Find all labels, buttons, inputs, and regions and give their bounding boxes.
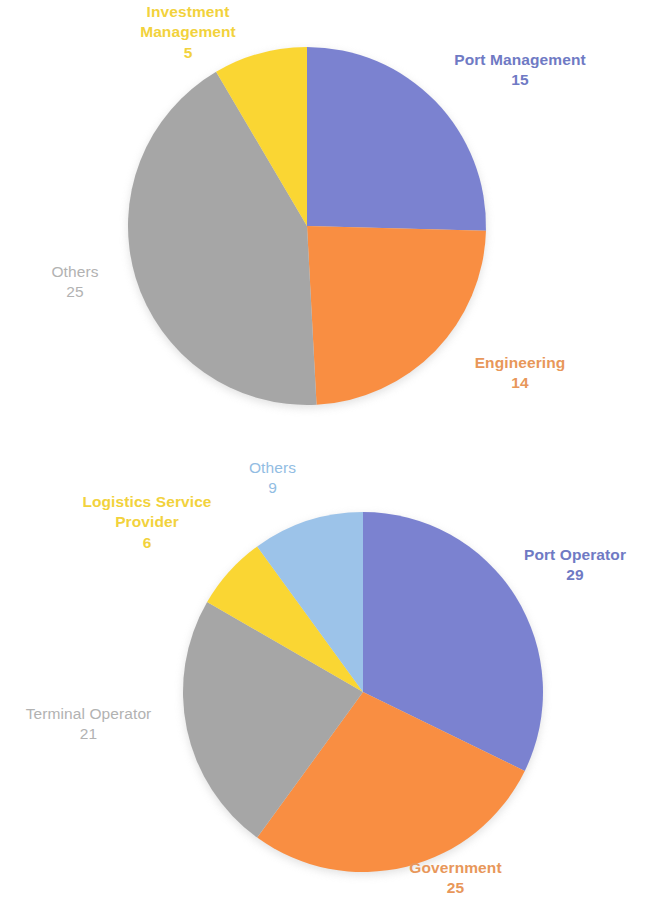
slice-label-investment-management-line1: Investment — [147, 3, 230, 20]
slice-label-government: Government 25 — [368, 858, 543, 899]
slice-value-terminal-operator: 21 — [0, 724, 181, 744]
slice-label-government-text: Government — [409, 859, 501, 876]
slice-value-government: 25 — [368, 878, 543, 898]
slice-label-others-top: Others 25 — [10, 262, 140, 303]
slice-label-investment-management-line2: Management — [140, 23, 236, 40]
slice-label-port-management: Port Management 15 — [420, 50, 620, 91]
slice-label-engineering: Engineering 14 — [425, 353, 615, 394]
slice-label-terminal-operator-text: Terminal Operator — [26, 705, 152, 722]
slice-value-others-top: 25 — [10, 282, 140, 302]
slice-value-engineering: 14 — [425, 373, 615, 393]
pie-chart-top: Investment Management 5 Port Management … — [0, 0, 653, 440]
slice-label-port-operator-text: Port Operator — [524, 546, 626, 563]
slice-value-logistics-service-provider: 6 — [42, 533, 252, 553]
slice-label-investment-management: Investment Management 5 — [88, 2, 288, 63]
slice-label-port-management-text: Port Management — [454, 51, 586, 68]
slice-label-logistics-service-provider-line1: Logistics Service — [82, 493, 211, 510]
pie-chart-stack: Investment Management 5 Port Management … — [0, 0, 653, 911]
slice-label-others-top-text: Others — [51, 263, 98, 280]
pie-chart-bottom: Others 9 Logistics Service Provider 6 Po… — [0, 440, 653, 911]
slice-label-others-bottom-text: Others — [249, 459, 296, 476]
slice-label-terminal-operator: Terminal Operator 21 — [0, 704, 181, 745]
slice-value-port-management: 15 — [420, 70, 620, 90]
slice-value-investment-management: 5 — [88, 43, 288, 63]
slice-value-port-operator: 29 — [500, 565, 650, 585]
slice-label-logistics-service-provider: Logistics Service Provider 6 — [42, 492, 252, 553]
slice-label-engineering-text: Engineering — [475, 354, 566, 371]
slice-label-logistics-service-provider-line2: Provider — [115, 513, 179, 530]
slice-label-port-operator: Port Operator 29 — [500, 545, 650, 586]
